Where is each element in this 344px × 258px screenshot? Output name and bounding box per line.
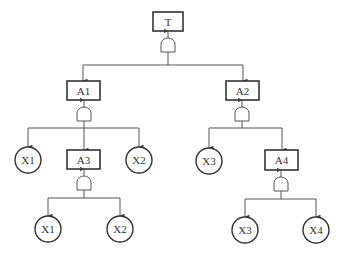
- and-gate-icon: [161, 38, 175, 52]
- basic-event-X1: X1: [35, 216, 61, 242]
- event-label-A4: A4: [275, 154, 289, 166]
- event-label-A3: A3: [77, 154, 91, 166]
- basic-event-X1: X1: [15, 147, 41, 173]
- and-gate-icon: [77, 176, 91, 190]
- event-A2: A2: [226, 81, 259, 100]
- and-gate-icon: [274, 177, 288, 191]
- event-label-A2: A2: [236, 85, 249, 97]
- basic-event-X3: X3: [196, 148, 222, 174]
- fault-tree-diagram: T A1 X1 X2 A3 X1 X2 A2: [0, 0, 344, 258]
- basic-event-label: X2: [132, 154, 145, 166]
- basic-event-label: X1: [21, 154, 34, 166]
- basic-event-X4: X4: [303, 217, 329, 243]
- basic-event-X2: X2: [126, 147, 152, 173]
- basic-event-label: X1: [41, 223, 54, 235]
- event-A4: A4: [265, 150, 298, 170]
- event-A1: A1: [67, 81, 100, 100]
- basic-event-label: X3: [202, 155, 216, 167]
- and-gate-icon: [77, 107, 91, 121]
- basic-event-label: X2: [113, 223, 126, 235]
- basic-event-label: X4: [309, 224, 323, 236]
- event-label-A1: A1: [77, 85, 90, 97]
- event-A3: A3: [67, 150, 100, 169]
- and-gate-icon: [235, 107, 249, 121]
- basic-event-X3: X3: [232, 217, 258, 243]
- event-label-T: T: [165, 16, 172, 28]
- basic-event-label: X3: [238, 224, 252, 236]
- event-T: T: [153, 12, 183, 31]
- basic-event-X2: X2: [107, 216, 133, 242]
